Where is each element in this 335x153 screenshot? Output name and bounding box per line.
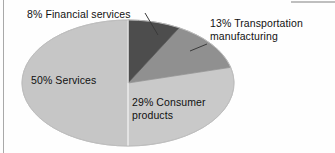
slice-label-services: 50% Services <box>31 74 96 87</box>
slice-label-consumer-products: 29% Consumer products <box>132 96 206 121</box>
pie-chart-figure: 8% Financial services 13% Transportation… <box>0 0 335 153</box>
slice-label-transportation-manufacturing: 13% Transportation manufacturing <box>210 17 303 42</box>
slice-label-financial-services: 8% Financial services <box>27 8 131 21</box>
